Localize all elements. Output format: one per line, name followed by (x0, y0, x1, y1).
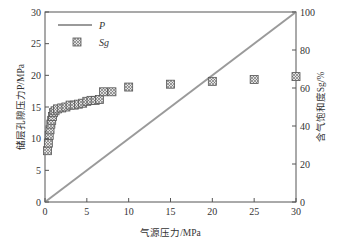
x-tick-label: 20 (207, 206, 217, 217)
y-left-tick-label: 5 (36, 165, 41, 176)
sg-data-point (167, 80, 175, 88)
y-right-tick-label: 0 (300, 197, 305, 208)
y-right-tick-label: 40 (300, 121, 310, 132)
sg-data-point (125, 83, 133, 91)
y-right-tick-label: 20 (300, 159, 310, 170)
y-right-tick-label: 100 (300, 7, 315, 18)
y-left-tick-label: 30 (31, 7, 41, 18)
y-left-tick-label: 25 (31, 38, 41, 49)
y-left-tick-label: 10 (31, 133, 41, 144)
y-left-tick-label: 0 (36, 197, 41, 208)
x-tick-label: 10 (124, 206, 134, 217)
sg-data-point (250, 75, 258, 83)
sg-data-point (292, 73, 300, 81)
y-right-tick-label: 60 (300, 83, 310, 94)
legend-sg-label: Sg (99, 37, 109, 48)
x-tick-label: 30 (291, 206, 301, 217)
legend-p-label: P (98, 20, 105, 31)
y-right-axis-label: 含气饱和度Sg/% (315, 72, 326, 143)
y-left-tick-label: 20 (31, 70, 41, 81)
sg-data-point (108, 88, 116, 96)
sg-data-point (44, 147, 52, 155)
sg-data-point (208, 77, 216, 85)
legend-sg-swatch (73, 38, 81, 46)
sg-data-point (44, 139, 52, 147)
y-right-tick-label: 80 (300, 45, 310, 56)
y-left-tick-label: 15 (31, 102, 41, 113)
x-axis-label: 气源压力/MPa (140, 227, 201, 238)
chart: 051015202530051015202530020406080100气源压力… (0, 0, 337, 242)
sg-data-point (100, 88, 108, 96)
x-tick-label: 25 (249, 206, 259, 217)
x-tick-label: 15 (166, 206, 176, 217)
sg-data-point (95, 95, 103, 103)
x-tick-label: 0 (43, 206, 48, 217)
y-left-axis-label: 储层孔隙压力P/MPa (15, 63, 26, 150)
x-tick-label: 5 (84, 206, 89, 217)
